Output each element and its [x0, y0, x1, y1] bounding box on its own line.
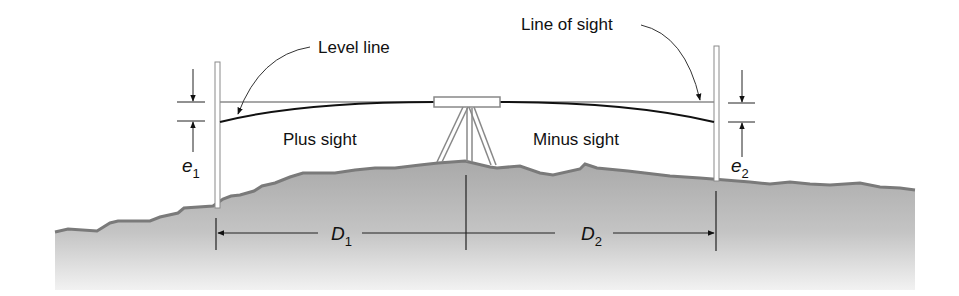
- level-line-label: Level line: [318, 38, 390, 57]
- line-of-sight-callout-arrow: [641, 25, 700, 100]
- e1-dimension: [177, 69, 205, 152]
- level-instrument: [434, 97, 500, 165]
- e2-dimension: [728, 70, 755, 157]
- minus-sight-label: Minus sight: [533, 130, 619, 149]
- right-level-rod: [714, 46, 719, 181]
- plus-sight-label: Plus sight: [283, 130, 357, 149]
- line-of-sight-label: Line of sight: [521, 15, 613, 34]
- level-line-callout-arrow: [238, 47, 310, 114]
- e1-symbol: e1: [182, 155, 200, 181]
- left-level-rod: [215, 62, 220, 208]
- level-line-curve: [220, 102, 435, 122]
- leveling-diagram: Level line Line of sight Plus sight Minu…: [0, 0, 959, 296]
- e2-symbol: e2: [731, 155, 749, 181]
- level-line-curve-right: [503, 102, 714, 122]
- ground: [55, 161, 915, 290]
